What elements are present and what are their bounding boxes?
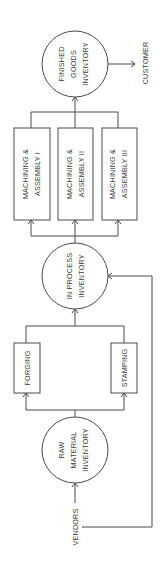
arrow-to-customer	[108, 61, 135, 67]
connector-forge-stamp-to-inprocess	[26, 309, 124, 343]
in-process-label-1: IN PROCESS	[65, 253, 74, 299]
in-process-circle	[42, 243, 108, 309]
in-process-label-2: INVENTORY	[77, 254, 86, 297]
arrow-vendors-to-raw	[72, 483, 78, 503]
ma2-label-2: ASSEMBLY II	[77, 151, 86, 197]
vendors-label: VENDORS	[71, 509, 80, 546]
finished-goods-label-1: FINISHED	[57, 46, 66, 81]
raw-material-label-3: INVENTORY	[81, 428, 90, 471]
ma1-label-2: ASSEMBLY I	[33, 152, 42, 196]
forging-node: FORGING	[14, 343, 40, 393]
stamping-node: STAMPING	[111, 343, 137, 393]
connector-inprocess-to-ma	[28, 220, 121, 243]
inventory-flow-diagram: FINISHED GOODS INVENTORY CUSTOMER MACHIN…	[0, 0, 160, 582]
finished-goods-label-2: GOODS	[69, 50, 78, 78]
machining-assembly-2-box	[58, 128, 93, 220]
ma1-label-1: MACHINING &	[21, 149, 30, 199]
finished-goods-node: FINISHED GOODS INVENTORY	[42, 31, 108, 97]
raw-material-label-2: MATERIAL	[69, 431, 78, 468]
connector-raw-to-forge-stamp	[23, 393, 127, 418]
arrow-vendors-to-inprocess	[82, 273, 152, 527]
machining-assembly-1-box	[14, 128, 50, 220]
ma3-label-1: MACHINING &	[108, 149, 117, 199]
ma3-label-2: ASSEMBLY III	[120, 150, 129, 198]
finished-goods-label-3: INVENTORY	[81, 42, 90, 85]
machining-assembly-2-node: MACHINING & ASSEMBLY II	[58, 128, 93, 220]
stamping-label: STAMPING	[120, 348, 129, 387]
forging-label: FORGING	[23, 350, 32, 385]
machining-assembly-1-node: MACHINING & ASSEMBLY I	[14, 128, 50, 220]
raw-material-label-1: RAW	[57, 441, 66, 458]
connector-ma-to-finished	[31, 97, 118, 128]
customer-label: CUSTOMER	[141, 42, 150, 85]
raw-material-node: RAW MATERIAL INVENTORY	[42, 417, 108, 483]
machining-assembly-3-node: MACHINING & ASSEMBLY III	[102, 128, 137, 220]
in-process-node: IN PROCESS INVENTORY	[42, 243, 108, 309]
ma2-label-1: MACHINING &	[65, 149, 74, 199]
